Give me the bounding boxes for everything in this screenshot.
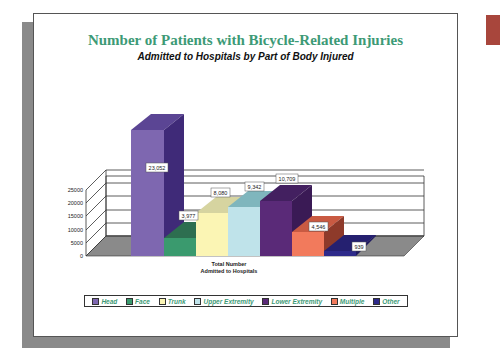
svg-text:939: 939 — [354, 244, 363, 250]
svg-text:5000: 5000 — [71, 240, 83, 246]
x-axis-label: Total Number Admitted to Hospitals — [189, 261, 269, 275]
svg-text:25000: 25000 — [68, 187, 83, 193]
next-slide-edge — [486, 15, 500, 45]
svg-text:4,546: 4,546 — [312, 224, 326, 230]
legend-item-other: Other — [373, 298, 399, 305]
legend-item-trunk: Trunk — [159, 298, 186, 305]
svg-text:15000: 15000 — [68, 213, 83, 219]
svg-text:0: 0 — [80, 253, 83, 259]
svg-text:23,052: 23,052 — [149, 165, 166, 171]
legend-item-lower-extremity: Lower Extremity — [262, 298, 322, 305]
legend-item-head: Head — [92, 298, 117, 305]
bar-chart-3d: 0 5000 10000 15000 20000 25000 — [34, 14, 457, 336]
svg-text:9,342: 9,342 — [248, 184, 262, 190]
svg-text:3,977: 3,977 — [182, 213, 196, 219]
legend-item-upper-extremity: Upper Extremity — [194, 298, 253, 305]
svg-text:10,709: 10,709 — [279, 176, 296, 182]
legend-item-multiple: Multiple — [331, 298, 365, 305]
svg-text:8,080: 8,080 — [214, 190, 228, 196]
chart-legend: Head Face Trunk Upper Extremity Lower Ex… — [84, 295, 408, 307]
chart-slide: Number of Patients with Bicycle-Related … — [33, 13, 458, 337]
svg-text:20000: 20000 — [68, 200, 83, 206]
svg-text:10000: 10000 — [68, 227, 83, 233]
legend-item-face: Face — [126, 298, 150, 305]
